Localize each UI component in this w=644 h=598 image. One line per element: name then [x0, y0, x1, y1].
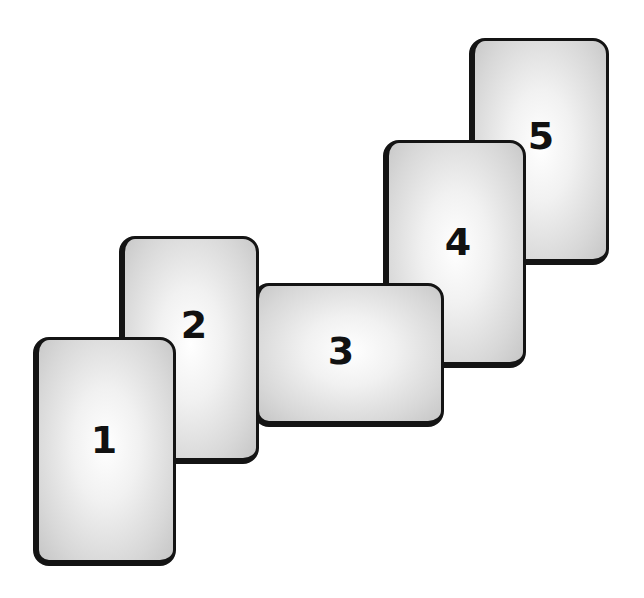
- card-4-label: 4: [445, 223, 471, 261]
- card-1-label: 1: [91, 421, 117, 459]
- card-5-label: 5: [528, 117, 554, 155]
- card-2-label: 2: [181, 306, 207, 344]
- card-staircase-diagram: 5 4 3 2 1: [0, 0, 644, 598]
- card-3-label: 3: [328, 332, 354, 370]
